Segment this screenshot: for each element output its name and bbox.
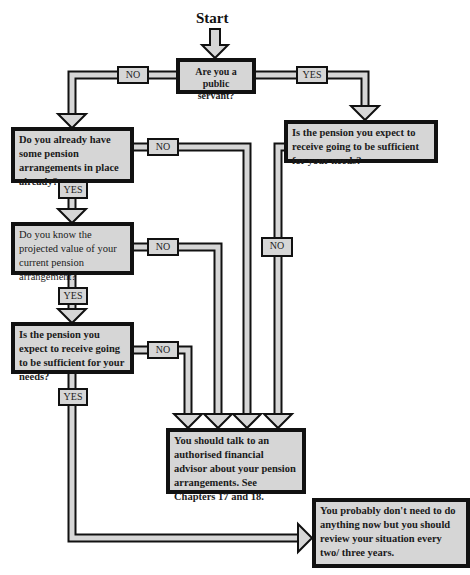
start-label: Start xyxy=(196,10,229,27)
node-public-servant: Are you a public servant? xyxy=(176,58,256,94)
node-sufficient: Is the pension you expect to receive goi… xyxy=(11,322,134,374)
edge-label-sufficient-yes: YES xyxy=(58,388,88,406)
node-existing-arrangements: Do you already have some pension arrange… xyxy=(11,127,134,183)
node-no-action: You probably don't need to do anything n… xyxy=(312,498,470,568)
edge-label-existing-no: NO xyxy=(147,138,179,156)
edge-label-existing-yes: YES xyxy=(58,181,88,199)
edge-label-public-yes: YES xyxy=(296,66,328,84)
node-sufficient-public: Is the pension you expect to receive goi… xyxy=(284,120,438,163)
edge-label-projected-no: NO xyxy=(147,238,179,256)
connector-projected-no xyxy=(134,247,232,428)
edge-label-sufficient-public-no: NO xyxy=(261,237,293,257)
connector-sufficient-no xyxy=(134,350,202,428)
node-projected-value: Do you know the projected value of your … xyxy=(11,222,134,275)
connector-existing-no xyxy=(134,147,261,428)
node-talk-advisor: You should talk to an authorised financi… xyxy=(166,428,306,494)
connector-sufficient-public-no xyxy=(264,147,292,428)
edge-label-public-no: NO xyxy=(117,66,149,84)
start-arrow-icon xyxy=(202,29,228,58)
edge-label-sufficient-no: NO xyxy=(147,341,179,359)
edge-label-projected-yes: YES xyxy=(58,287,88,305)
